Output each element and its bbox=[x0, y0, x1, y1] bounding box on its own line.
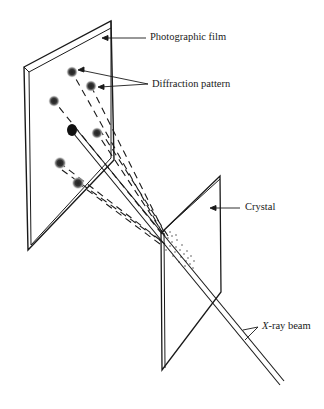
central-beam-spot bbox=[67, 124, 77, 136]
crystal bbox=[161, 176, 221, 370]
label-photographic-film: Photographic film bbox=[150, 31, 226, 42]
label-xray-beam-rest: -ray beam bbox=[268, 320, 310, 331]
label-xray-beam: X-ray beam bbox=[262, 320, 311, 331]
label-diffraction-pattern: Diffraction pattern bbox=[152, 78, 230, 89]
xray-diffraction-diagram bbox=[0, 0, 324, 409]
label-crystal: Crystal bbox=[245, 201, 275, 212]
diffraction-spots bbox=[48, 66, 103, 190]
